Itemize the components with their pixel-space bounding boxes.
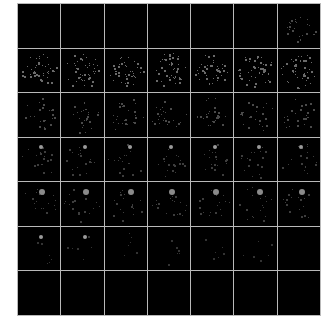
image-tile [18, 227, 60, 271]
speckle [310, 126, 312, 128]
speckle [164, 71, 165, 72]
image-tile [18, 271, 60, 315]
speckle [297, 87, 299, 89]
image-tile [61, 49, 103, 93]
row-label [2, 121, 12, 131]
speckle [158, 119, 159, 120]
speckle [295, 21, 296, 22]
speckle [130, 242, 131, 243]
speckle [263, 207, 264, 208]
speckle [168, 164, 170, 166]
speckle [90, 159, 91, 160]
speckle [222, 247, 223, 248]
speckle [81, 79, 82, 80]
speckle [172, 196, 173, 197]
speckle [133, 99, 135, 101]
speckle [217, 165, 218, 166]
speckle [31, 69, 32, 70]
speckle [206, 100, 207, 101]
speckle [52, 118, 53, 119]
bright-spot [213, 145, 217, 149]
bright-spot [213, 189, 219, 195]
speckle [250, 116, 252, 118]
speckle [263, 107, 264, 108]
speckle [239, 75, 241, 77]
speckle [252, 216, 253, 217]
speckle [120, 192, 121, 193]
speckle [289, 126, 290, 127]
speckle [252, 195, 253, 196]
bright-spot [128, 189, 134, 195]
speckle [284, 117, 285, 118]
speckle [306, 115, 307, 116]
speckle [93, 208, 94, 209]
speckle [178, 250, 180, 252]
speckle [311, 62, 312, 63]
speckle [293, 72, 294, 73]
speckle [140, 200, 141, 201]
speckle [49, 110, 50, 111]
speckle [86, 57, 87, 58]
speckle [72, 208, 74, 210]
speckle [171, 240, 173, 242]
speckle [77, 167, 78, 168]
speckle [42, 65, 43, 66]
speckle [169, 58, 171, 60]
speckle [264, 69, 266, 71]
speckle [304, 75, 306, 77]
speckle [88, 112, 89, 113]
speckle [135, 115, 136, 116]
speckle [133, 208, 134, 209]
speckle [226, 163, 227, 164]
speckle [300, 60, 301, 61]
bright-spot [39, 189, 45, 195]
speckle [125, 119, 127, 121]
image-tile [234, 227, 276, 271]
speckle [217, 117, 219, 119]
speckle [288, 164, 289, 165]
speckle [212, 65, 213, 66]
speckle [51, 82, 53, 84]
speckle [121, 82, 122, 83]
speckle [249, 61, 250, 62]
speckle [304, 170, 305, 171]
speckle [130, 151, 131, 152]
speckle [268, 74, 269, 75]
image-tile [61, 138, 103, 182]
speckle [156, 70, 157, 71]
speckle [80, 150, 81, 151]
speckle [249, 117, 250, 118]
speckle [207, 65, 208, 66]
speckle [156, 204, 157, 205]
speckle [204, 71, 205, 72]
speckle [211, 164, 212, 165]
speckle [284, 122, 285, 123]
speckle [84, 85, 85, 86]
speckle [258, 241, 259, 242]
speckle [243, 112, 244, 113]
speckle [293, 61, 294, 62]
speckle [297, 125, 299, 127]
speckle [265, 64, 267, 66]
speckle [86, 118, 88, 120]
speckle [41, 164, 42, 165]
speckle [254, 60, 256, 62]
speckle [30, 76, 32, 78]
speckle [163, 158, 165, 160]
speckle [214, 111, 216, 113]
speckle [126, 155, 127, 156]
speckle [119, 106, 121, 108]
speckle [300, 40, 301, 41]
speckle [286, 127, 287, 128]
speckle [133, 84, 134, 85]
speckle [47, 82, 49, 84]
speckle [206, 68, 208, 70]
speckle [173, 214, 175, 216]
speckle [246, 84, 248, 86]
speckle [229, 202, 230, 203]
image-tile [234, 49, 276, 93]
speckle [200, 116, 202, 118]
speckle [69, 204, 70, 205]
speckle [241, 78, 243, 80]
speckle [215, 120, 216, 121]
